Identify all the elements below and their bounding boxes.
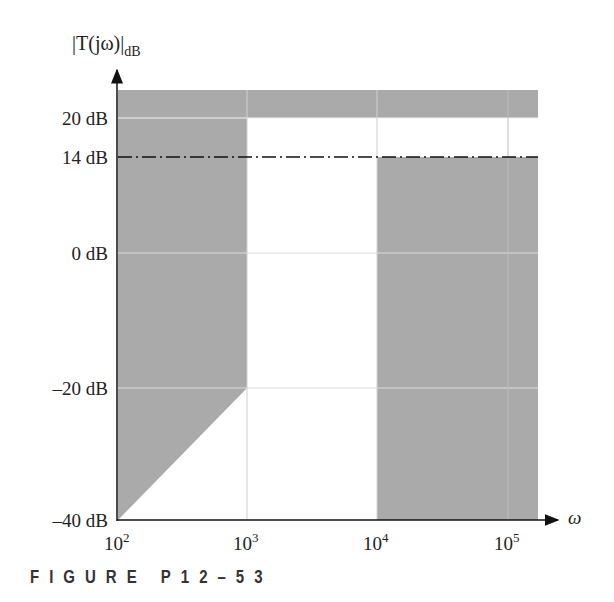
high-frequency-region [377,157,538,520]
y-axis-title: |T(jω)|dB [72,32,141,59]
y-label-minus40db: –40 dB [52,510,108,531]
upper-band-region [118,90,538,118]
x-label-1e4: 104 [363,530,389,554]
x-axis-title: ω [568,507,581,528]
figure-caption: FIGURE P12–53 [30,565,273,586]
bode-constraint-chart: |T(jω)|dB 20 dB 14 dB 0 dB –20 dB –40 dB… [0,0,614,602]
y-label-20db: 20 dB [62,108,108,129]
y-label-minus20db: –20 dB [52,378,108,399]
x-label-1e3: 103 [233,530,259,554]
x-label-1e2: 102 [104,530,130,554]
y-label-0db: 0 dB [72,243,108,264]
y-label-14db: 14 dB [62,147,108,168]
x-label-1e5: 105 [494,530,520,554]
low-frequency-region [118,118,247,520]
